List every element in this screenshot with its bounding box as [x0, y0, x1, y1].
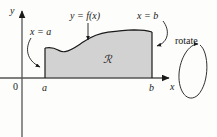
figure-canvas — [0, 0, 217, 137]
label-x-equals-b: x = b — [137, 11, 158, 21]
label-y-equals-fx: y = f(x) — [70, 11, 100, 21]
shaded-region-R — [45, 30, 152, 78]
x-axis-label: x — [170, 82, 174, 92]
label-x-equals-a: x = a — [30, 27, 51, 37]
label-rotate: rotate — [175, 36, 198, 46]
rotation-ellipse — [179, 44, 207, 98]
label-tick-b: b — [149, 83, 154, 93]
label-origin: 0 — [13, 82, 18, 92]
label-region-R: ℛ — [103, 54, 112, 65]
y-axis-label: y — [10, 6, 14, 16]
leader-arrow-x-equals-b — [157, 21, 167, 46]
calculus-solid-of-revolution-figure: y x = a y = f(x) x = b rotate ℛ 0 a b x — [0, 0, 217, 137]
label-tick-a: a — [42, 83, 47, 93]
leader-arrow-x-equals-a — [28, 38, 40, 67]
